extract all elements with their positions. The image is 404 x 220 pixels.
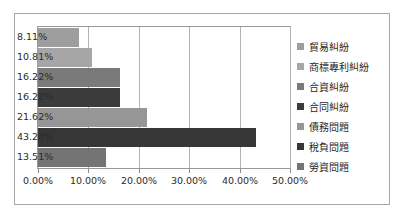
legend-item[interactable]: 勞資問題 xyxy=(297,156,389,176)
x-axis-tick xyxy=(240,169,241,173)
x-axis-tick xyxy=(290,169,291,173)
bar-row xyxy=(38,88,290,107)
legend-label: 勞資問題 xyxy=(309,159,349,174)
x-axis-tick xyxy=(139,169,140,173)
bar-row xyxy=(38,108,290,127)
legend-swatch-icon xyxy=(297,103,304,110)
legend-label: 稅負問題 xyxy=(309,139,349,154)
plot-frame xyxy=(37,26,291,169)
legend-swatch-icon xyxy=(297,63,304,70)
legend-label: 貿易糾紛 xyxy=(309,39,349,54)
bar-row xyxy=(38,48,290,67)
data-label: 16.22% xyxy=(17,67,61,86)
data-label: 8.11% xyxy=(17,27,61,46)
legend-item[interactable]: 稅負問題 xyxy=(297,136,389,156)
legend-item[interactable]: 商標專利糾紛 xyxy=(297,56,389,76)
x-axis-tick-label: 40.00% xyxy=(222,175,258,186)
legend-swatch-icon xyxy=(297,123,304,130)
legend-label: 合同糾紛 xyxy=(309,99,349,114)
legend-item[interactable]: 貿易糾紛 xyxy=(297,36,389,56)
legend-item[interactable]: 債務問題 xyxy=(297,116,389,136)
legend-swatch-icon xyxy=(297,143,304,150)
x-axis-tick-label: 50.00% xyxy=(272,175,308,186)
x-axis-tick xyxy=(88,169,89,173)
legend-label: 合資糾紛 xyxy=(309,79,349,94)
x-axis-tick-label: 20.00% xyxy=(121,175,157,186)
legend-label: 商標專利糾紛 xyxy=(309,59,369,74)
bar-row xyxy=(38,28,290,47)
legend-swatch-icon xyxy=(297,83,304,90)
legend-swatch-icon xyxy=(297,43,304,50)
x-axis-tick xyxy=(38,169,39,173)
data-label: 21.62% xyxy=(17,107,61,126)
bar[interactable] xyxy=(38,128,256,147)
data-label: 43.24% xyxy=(17,127,61,146)
legend-item[interactable]: 合同糾紛 xyxy=(297,96,389,116)
data-label: 16.22% xyxy=(17,87,61,106)
x-axis-tick xyxy=(189,169,190,173)
data-label: 13.51% xyxy=(17,147,61,166)
legend-swatch-icon xyxy=(297,163,304,170)
x-axis-tick-label: 10.00% xyxy=(70,175,106,186)
chart-legend: 貿易糾紛商標專利糾紛合資糾紛合同糾紛債務問題稅負問題勞資問題 xyxy=(297,36,389,176)
gridline xyxy=(290,27,291,168)
bar-row xyxy=(38,68,290,87)
data-label: 10.81% xyxy=(17,47,61,66)
x-axis-tick-label: 30.00% xyxy=(171,175,207,186)
plot-area xyxy=(38,27,290,168)
x-axis-tick-label: 0.00% xyxy=(23,175,53,186)
bar-row xyxy=(38,148,290,167)
chart-figure: 0.00%10.00%20.00%30.00%40.00%50.00% 8.11… xyxy=(14,13,390,205)
bar-row xyxy=(38,128,290,147)
legend-label: 債務問題 xyxy=(309,119,349,134)
legend-item[interactable]: 合資糾紛 xyxy=(297,76,389,96)
